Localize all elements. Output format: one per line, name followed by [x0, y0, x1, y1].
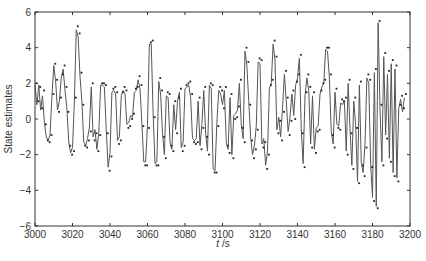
x-tick-label: 3040: [99, 229, 122, 240]
observation-point: [167, 91, 169, 93]
observation-point: [41, 107, 43, 109]
observation-point: [251, 140, 253, 142]
observation-point: [397, 181, 399, 183]
observation-point: [403, 107, 405, 109]
observation-point: [109, 170, 111, 172]
observation-point: [225, 86, 227, 88]
observation-point: [339, 129, 341, 131]
observation-point: [148, 127, 150, 129]
observation-point: [341, 98, 343, 100]
observation-point: [388, 70, 390, 72]
observation-point: [223, 107, 225, 109]
observation-point: [292, 90, 294, 92]
observation-point: [321, 90, 323, 92]
observation-point: [334, 147, 336, 149]
x-tick-label: 3120: [249, 229, 272, 240]
observation-point: [206, 136, 208, 138]
observation-point: [127, 127, 129, 129]
observation-point: [107, 132, 109, 134]
observation-point: [259, 57, 261, 59]
observation-point: [317, 131, 319, 133]
observation-point: [131, 118, 133, 120]
x-tick-label: 3180: [361, 229, 384, 240]
observation-point: [216, 172, 218, 174]
observation-point: [306, 91, 308, 93]
observation-point: [156, 164, 158, 166]
observation-point: [172, 150, 174, 152]
observation-point: [139, 75, 141, 77]
observation-point: [328, 47, 330, 49]
observation-point: [238, 106, 240, 108]
observation-point: [124, 86, 126, 88]
observation-point: [330, 74, 332, 76]
observation-point: [174, 100, 176, 102]
observation-point: [221, 90, 223, 92]
observation-point: [39, 86, 41, 88]
observation-point: [82, 104, 84, 106]
observation-point: [111, 156, 113, 158]
observation-point: [257, 129, 259, 131]
observation-point: [71, 154, 73, 156]
state-estimates-chart: 3000302030403060308031003120314031603180…: [0, 0, 426, 261]
observation-point: [214, 172, 216, 174]
observation-point: [246, 47, 248, 49]
observation-point: [52, 93, 54, 95]
x-tick-label: 3160: [324, 229, 347, 240]
observation-point: [296, 81, 298, 83]
observation-point: [281, 140, 283, 142]
observation-point: [244, 141, 246, 143]
observation-point: [122, 91, 124, 93]
x-tick-label: 3080: [174, 229, 197, 240]
observation-point: [114, 86, 116, 88]
observation-point: [268, 154, 270, 156]
observation-point: [345, 97, 347, 99]
observation-point: [159, 77, 161, 79]
observation-point: [54, 63, 56, 65]
observation-point: [163, 136, 165, 138]
observation-point: [105, 84, 107, 86]
observation-point: [255, 148, 257, 150]
observation-point: [56, 79, 58, 81]
observation-point: [302, 132, 304, 134]
y-tick-label: −6: [20, 221, 32, 232]
observation-point: [349, 79, 351, 81]
observation-point: [234, 118, 236, 120]
observation-point: [45, 123, 47, 125]
observation-point: [283, 111, 285, 113]
y-axis-label: State estimates: [3, 85, 14, 154]
observation-point: [309, 86, 311, 88]
observation-point: [304, 166, 306, 168]
x-axis-label: t /s: [216, 238, 229, 249]
observation-point: [377, 207, 379, 209]
observation-point: [101, 82, 103, 84]
observation-point: [208, 154, 210, 156]
observation-point: [161, 90, 163, 92]
observation-point: [118, 143, 120, 145]
observation-point: [58, 111, 60, 113]
x-tick-label: 3060: [136, 229, 159, 240]
x-tick-label: 3020: [61, 229, 84, 240]
observation-point: [191, 93, 193, 95]
y-tick-label: 6: [25, 7, 31, 18]
observation-point: [67, 111, 69, 113]
observation-point: [231, 93, 233, 95]
observation-point: [326, 47, 328, 49]
observation-point: [352, 168, 354, 170]
observation-point: [287, 97, 289, 99]
observation-point: [37, 100, 39, 102]
observation-point: [319, 129, 321, 131]
observation-point: [97, 150, 99, 152]
observation-point: [217, 125, 219, 127]
observation-point: [195, 143, 197, 145]
observation-point: [375, 68, 377, 70]
observation-point: [298, 74, 300, 76]
observation-point: [405, 93, 407, 95]
observation-point: [362, 164, 364, 166]
plot-area: [35, 12, 410, 226]
observation-point: [77, 25, 79, 27]
observation-point: [204, 86, 206, 88]
observation-point: [186, 84, 188, 86]
observation-point: [261, 59, 263, 61]
observation-point: [294, 118, 296, 120]
observation-point: [382, 164, 384, 166]
